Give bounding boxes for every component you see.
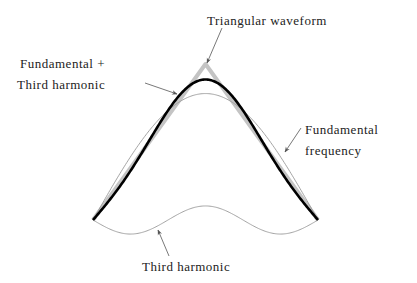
waveform-diagram: Triangular waveform Fundamental + Third … [0,0,417,283]
third-harmonic-curve [93,206,318,234]
label-fundamental-line1: Fundamental [305,122,378,137]
triangular-waveform-curve [93,64,318,220]
label-fundamental-line2: frequency [305,143,361,158]
fundamental-plus-third-curve [93,80,318,221]
label-sum-line1: Fundamental + [20,56,105,71]
label-sum-line2: Third harmonic [17,77,105,92]
fundamental-arrow [285,128,301,152]
sum-arrow [145,83,177,94]
triangular-arrow [207,28,222,63]
label-triangular-waveform: Triangular waveform [207,13,327,28]
third-harmonic-arrow [158,230,169,256]
fundamental-frequency-curve [93,94,318,220]
label-third-harmonic: Third harmonic [142,259,230,274]
